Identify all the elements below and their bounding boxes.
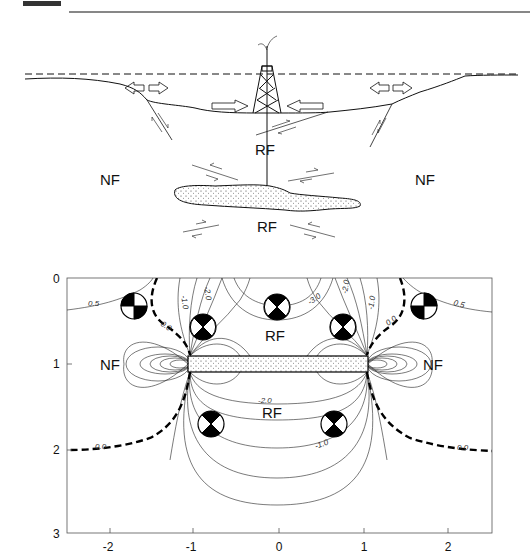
page-header [23,1,530,12]
y-axis [67,364,72,450]
right-fault [370,104,392,147]
svg-text:0.0: 0.0 [95,442,107,451]
rf-upper-label: RF [255,141,275,158]
svg-text:1: 1 [53,357,60,371]
svg-text:0.0: 0.0 [457,443,469,452]
svg-text:-1.0: -1.0 [366,295,377,311]
beachball-icon [121,293,147,319]
beachball-icon [190,314,216,340]
y-tick-labels: 0 1 2 3 [53,272,60,541]
rf-lower-label: RF [257,218,277,235]
ground-surface [25,75,518,113]
nf-right-label: NF [415,171,435,188]
reservoir-bar [188,356,368,372]
svg-text:0.5: 0.5 [88,299,100,308]
stress-contour-plot: 0.5 0.0 -1.0 -2.0 -3.0 -2.0 -1.0 0.0 0.5… [53,272,492,554]
svg-text:-1: -1 [186,540,197,554]
svg-text:3: 3 [53,527,60,541]
svg-text:-2.0: -2.0 [202,286,213,302]
svg-text:0: 0 [53,272,60,286]
svg-text:2: 2 [445,540,452,554]
svg-text:2: 2 [53,443,60,457]
beachball-icon [264,294,290,320]
svg-text:0.0: 0.0 [384,314,399,328]
x-tick-labels: -2 -1 0 1 2 [103,540,452,554]
svg-text:-2.0: -2.0 [340,279,351,295]
left-fault [147,100,172,140]
rf-upper-region-label: RF [265,327,285,344]
oil-derrick-icon [253,36,281,188]
figure: RF RF NF NF [0,0,530,557]
beachball-icon [411,293,437,319]
svg-text:1: 1 [361,540,368,554]
cross-section-diagram [25,36,518,239]
svg-text:0.5: 0.5 [452,298,466,310]
x-axis [110,528,448,533]
nf-left-region-label: NF [100,356,120,373]
beachball-icon [321,411,347,437]
svg-text:0: 0 [276,540,283,554]
nf-left-label: NF [100,171,120,188]
rf-lower-region-label: RF [262,404,282,421]
svg-text:-1.0: -1.0 [179,295,190,311]
svg-text:-2: -2 [103,540,114,554]
section-marker-bar [23,1,61,6]
nf-right-region-label: NF [423,356,443,373]
reservoir-body [175,185,361,211]
beachball-icon [198,411,224,437]
beachball-icon [330,314,356,340]
